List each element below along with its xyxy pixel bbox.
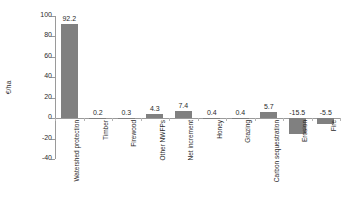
- y-axis-title-text: €/ha: [6, 80, 13, 94]
- y-axis-tick-label: 40: [44, 72, 52, 79]
- y-axis-tick-label: 0: [48, 113, 52, 120]
- y-axis-tick-label: -20: [42, 134, 52, 141]
- x-axis-category-label: Timber: [102, 120, 110, 196]
- bar-value-label: 92.2: [52, 15, 86, 22]
- bar: [89, 118, 106, 119]
- x-axis-tick-mark: [340, 118, 341, 121]
- bar-value-label: 7.4: [166, 102, 200, 109]
- bar: [118, 118, 135, 119]
- x-axis-category-label: Erosion: [301, 120, 309, 196]
- y-axis-tick-label: 100: [40, 11, 52, 18]
- bar: [146, 114, 163, 118]
- y-axis-tick-label: 60: [44, 52, 52, 59]
- bar: [61, 24, 78, 118]
- y-axis-tick-label: 80: [44, 31, 52, 38]
- bar-value-label: -5.5: [309, 109, 343, 116]
- bar-chart: €/ha 100806040200-20-40 92.20.20.34.37.4…: [0, 0, 344, 199]
- x-axis-category-label: Honey: [216, 120, 224, 196]
- x-axis-category-label: Other NWFPs: [159, 120, 167, 196]
- y-axis-tick-label: 20: [44, 93, 52, 100]
- y-axis-tick-label: -40: [42, 154, 52, 161]
- x-axis-category-label: Firewood: [130, 120, 138, 196]
- bar: [232, 118, 249, 119]
- x-axis-category-labels: Watershed protectionTimberFirewoodOther …: [55, 120, 340, 199]
- x-axis-category-label: Net increment: [187, 120, 195, 196]
- y-axis-title: €/ha: [0, 62, 18, 112]
- x-axis-category-label: Fire: [330, 120, 338, 196]
- x-axis-category-label: Carbon sequestration: [273, 120, 281, 196]
- bar: [203, 118, 220, 119]
- x-axis-category-label: Watershed protection: [73, 120, 81, 196]
- x-axis-category-label: Grazing: [244, 120, 252, 196]
- bar: [175, 111, 192, 119]
- bar: [260, 112, 277, 118]
